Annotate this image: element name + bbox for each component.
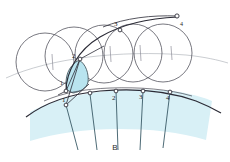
rolling-circles-group: [16, 24, 192, 91]
upper-label-4: 4: [180, 21, 183, 27]
circle-1: [16, 33, 74, 91]
tick-4: [171, 46, 172, 60]
upper-label-2: 2: [72, 52, 76, 60]
tick-2: [110, 46, 111, 62]
base-node-2: [114, 89, 118, 93]
upper-node-2: [78, 57, 82, 61]
upper-node-1: [64, 89, 68, 93]
upper-node-4: [175, 14, 179, 18]
center-helper-arc: [6, 54, 228, 78]
geometric-construction-diagram: 1 2 3 4 1 2 3 4 B: [0, 0, 230, 162]
tick-3: [140, 45, 141, 61]
upper-label-3: 3: [114, 20, 118, 28]
circle-5: [134, 24, 192, 82]
upper-label-1: 1: [60, 80, 63, 86]
base-label-2: 2: [112, 94, 116, 102]
upper-node-3: [118, 28, 122, 32]
base-label-1: 1: [62, 96, 66, 104]
connector-d: [80, 46, 104, 59]
base-label-4: 4: [166, 94, 170, 102]
base-label-3: 3: [139, 93, 143, 101]
figure-caption: B: [112, 143, 118, 152]
circle-radius-ticks-group: [52, 45, 172, 70]
figure-container: 1 2 3 4 1 2 3 4 B: [0, 0, 230, 162]
base-node-1: [88, 91, 92, 95]
tick-1: [52, 54, 53, 70]
